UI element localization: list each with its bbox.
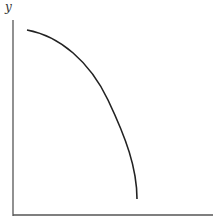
decreasing-curve bbox=[27, 30, 137, 199]
curve-diagram bbox=[0, 0, 217, 218]
